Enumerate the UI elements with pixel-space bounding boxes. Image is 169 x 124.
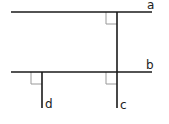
right-angle-marker-a-c xyxy=(106,12,117,24)
parallel-lines-diagram: a b d c xyxy=(0,0,169,124)
right-angle-marker-b-d xyxy=(31,72,42,84)
label-d: d xyxy=(45,97,53,111)
label-a: a xyxy=(147,0,154,12)
label-b: b xyxy=(146,58,154,72)
right-angle-marker-b-c xyxy=(106,72,117,84)
label-c: c xyxy=(120,98,127,112)
